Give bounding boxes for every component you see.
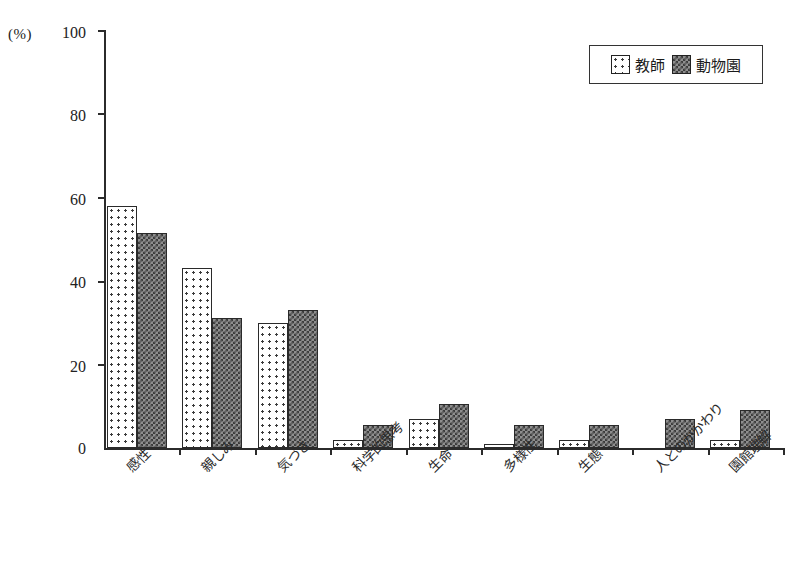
bar-teacher-6	[559, 440, 589, 448]
y-tick-label-80: 80	[42, 107, 86, 125]
bar-zoo-2	[288, 310, 318, 448]
x-tick-4	[481, 448, 483, 455]
legend: 教師 動物園	[589, 45, 763, 84]
y-tick-label-60: 60	[42, 191, 86, 209]
bar-teacher-4	[409, 419, 439, 448]
y-tick-label-20: 20	[42, 358, 86, 376]
legend-item-zoo: 動物園	[672, 54, 741, 75]
legend-item-teacher: 教師	[611, 54, 665, 75]
x-tick-3	[406, 448, 408, 455]
bar-teacher-2	[258, 323, 288, 448]
legend-label-zoo: 動物園	[696, 54, 741, 75]
bar-teacher-3	[333, 440, 363, 448]
y-tick-20	[98, 364, 106, 366]
x-tick-1	[255, 448, 257, 455]
x-axis-label-7: 人とのかかわり	[649, 398, 727, 476]
y-tick-80	[98, 113, 106, 115]
y-tick-100	[98, 30, 106, 32]
bar-chart: (%) 100 80 60 40 20 0 感性親しみ気づき科学的思考生命多様性…	[0, 0, 808, 574]
legend-swatch-zoo-icon	[672, 55, 691, 74]
y-axis-line	[104, 30, 106, 450]
x-tick-6	[632, 448, 634, 455]
y-tick-label-40: 40	[42, 274, 86, 292]
y-tick-60	[98, 197, 106, 199]
y-tick-40	[98, 281, 106, 283]
legend-label-teacher: 教師	[635, 54, 665, 75]
y-axis-unit-label: (%)	[8, 26, 32, 43]
x-tick-7	[708, 448, 710, 455]
y-tick-label-0: 0	[42, 440, 86, 458]
bar-teacher-1	[182, 268, 212, 448]
x-tick-8	[783, 448, 785, 455]
y-tick-label-100: 100	[42, 24, 86, 42]
x-tick-5	[557, 448, 559, 455]
bar-zoo-4	[439, 404, 469, 448]
x-tick-2	[330, 448, 332, 455]
bar-teacher-8	[710, 440, 740, 448]
bar-teacher-5	[484, 444, 514, 448]
x-tick-0	[179, 448, 181, 455]
legend-swatch-teacher-icon	[611, 55, 630, 74]
bar-teacher-0	[107, 206, 137, 448]
bar-zoo-0	[137, 233, 167, 448]
bar-zoo-6	[589, 425, 619, 448]
bar-zoo-1	[212, 318, 242, 448]
